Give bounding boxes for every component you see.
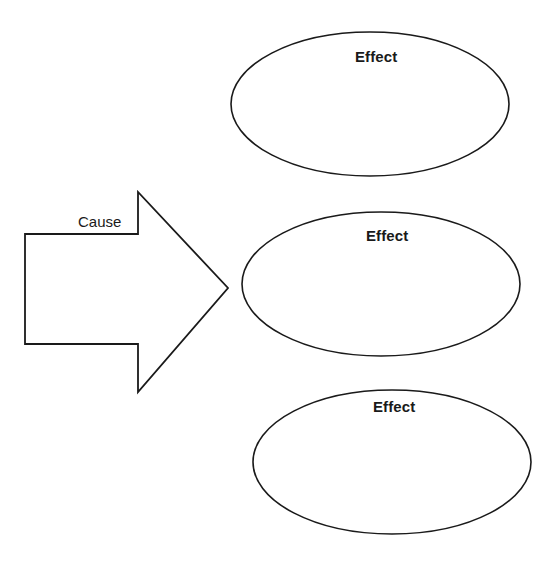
effect-label-1: Effect	[355, 49, 397, 64]
cause-label: Cause	[78, 214, 121, 229]
effect-label-2: Effect	[366, 228, 408, 243]
cause-arrow-shape[interactable]	[25, 192, 228, 392]
effect-label-3: Effect	[373, 399, 415, 414]
diagram-canvas: Cause Effect Effect Effect	[0, 0, 559, 564]
cause-effect-diagram	[0, 0, 559, 564]
